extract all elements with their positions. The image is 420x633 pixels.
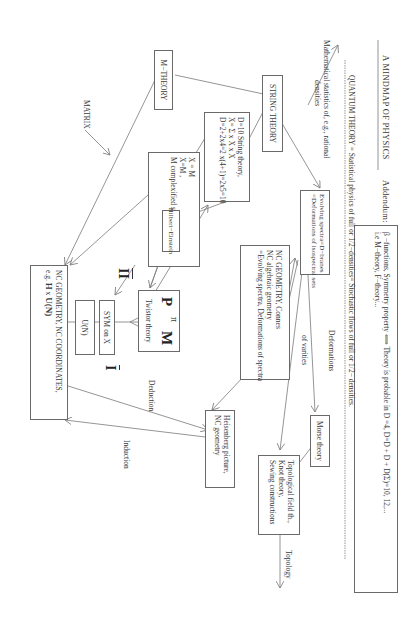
quantum-theory-label: QUANTUM THEORY — [347, 75, 356, 145]
d10-line-2: X= Σ x X x X — [227, 117, 236, 197]
addendum-line-2: i.e M−theory, F−theory... — [373, 232, 382, 586]
u-n-node[interactable]: U(N) — [75, 300, 95, 355]
sym-on-x-label: SYM on X — [103, 311, 112, 344]
nc-big-h: H — [44, 283, 54, 290]
math-statistics-note: Mathematical statistics of, e.g., ration… — [313, 40, 330, 158]
heisenberg-line-2: NC geometry — [213, 415, 222, 483]
topological-line-3: Sewing constructions — [268, 460, 277, 530]
math-statistics-line-2: densities — [313, 40, 322, 158]
m-theory-node[interactable]: M−THEORY — [154, 50, 173, 110]
nc-big-x: x — [44, 292, 53, 296]
heisenberg-line-1: Heisenberg picture, — [222, 415, 231, 483]
topology-label: Topology — [283, 550, 292, 579]
twistor-p-symbol: P — [158, 297, 175, 306]
u-n-label: U(N) — [81, 320, 90, 336]
addendum-box: β −functions, Symmetry property ⟺ Theory… — [354, 225, 398, 593]
d10-line-1: D=10 String theory, — [236, 117, 245, 197]
addendum-label: Addendum: — [380, 180, 390, 223]
sym-on-x-node[interactable]: SYM on X — [99, 300, 115, 355]
nc-big-line-2: e.g. H x U(N) — [43, 270, 54, 415]
topological-line-1: Topological field th., — [286, 460, 295, 530]
mindmap-page: A MINDMAP OF PHYSICS Addendum: β −functi… — [0, 0, 420, 633]
evolving-spectra-line-2: =Deformations of isospectral sets — [309, 194, 317, 271]
m-theory-label: M−THEORY — [159, 60, 168, 101]
heisenberg-picture-node[interactable]: Heisenberg picture, NC geometry — [205, 410, 235, 488]
nc-geometry-coordinates-node[interactable]: NC GEOMETRY, NC COORDINATES, e.g. H x U(… — [30, 265, 68, 420]
deduction-label: Deduction — [146, 380, 155, 411]
matrix-label: MATRIX — [81, 100, 90, 129]
quantum-theory-text: = Statistical physics of full or 1/2−den… — [347, 145, 356, 407]
d10-string-theory-node[interactable]: D=10 String theory, X= Σ x X x X D=2+2x4… — [204, 112, 250, 202]
twistor-pi-symbol: π — [169, 317, 181, 322]
math-statistics-line-1: Mathematical statistics of, e.g., ration… — [321, 40, 330, 158]
nc-connes-line-3: =Evolving spectra, Deformations of spect… — [256, 250, 265, 375]
string-theory-node[interactable]: STRING THEORY — [262, 75, 283, 152]
topological-line-2: Knot theory, — [277, 460, 286, 530]
twistor-m-symbol: M — [158, 331, 175, 345]
nc-big-eg: e.g. — [44, 270, 53, 281]
deformations-label: Deformations — [326, 330, 335, 371]
d10-line-3: D=2+2x4=2 x(4+1)=2x5=10 — [218, 117, 227, 197]
twistor-theory-node[interactable]: P π M Twistor theory — [138, 290, 180, 352]
hilbert-einstein-node[interactable]: Hilbert−Einstein — [162, 210, 180, 252]
nc-geometry-connes-node[interactable]: NC GEOMETRY, Connes NC algebraic geometr… — [240, 245, 290, 380]
page-title: A MINDMAP OF PHYSICS — [380, 55, 390, 160]
nc-connes-line-1: NC GEOMETRY, Connes — [274, 250, 283, 375]
evolving-spectra-line-1: Evolving spectra=D−branes — [318, 194, 326, 271]
x-box-line-1: X = M — [187, 157, 196, 262]
addendum-line-1: β −functions, Symmetry property ⟺ Theory… — [382, 232, 391, 586]
hilbert-einstein-label: Hilbert−Einstein — [167, 208, 175, 255]
string-theory-label: STRING THEORY — [268, 84, 277, 143]
topological-field-node[interactable]: Topological field th., Knot theory, Sewi… — [258, 455, 300, 535]
of-varities-label: of varities — [299, 335, 308, 365]
roman-numeral-II: II — [115, 268, 133, 279]
morse-theory-node[interactable]: Morse theory — [310, 415, 330, 467]
nc-connes-line-2: NC algebraic geometry — [265, 250, 274, 375]
roman-numeral-I: I — [102, 365, 120, 370]
quantum-theory-line: QUANTUM THEORY = Statistical physics of … — [346, 75, 355, 407]
nc-big-u: U(N) — [44, 297, 54, 316]
nc-big-line-1: NC GEOMETRY, NC COORDINATES, — [54, 270, 63, 415]
morse-theory-label: Morse theory — [316, 421, 325, 461]
induction-label: Induction — [121, 440, 130, 469]
twistor-label: Twistor theory — [143, 299, 152, 343]
evolving-spectra-node[interactable]: Evolving spectra=D−branes =Deformations … — [300, 190, 330, 275]
